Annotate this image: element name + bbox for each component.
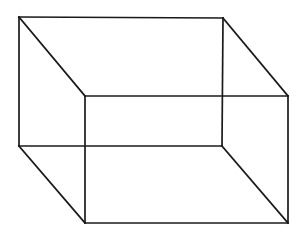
edge-back-bottom-left-to-front-bottom-left: [19, 146, 85, 223]
edge-back-bottom-right-to-front-bottom-right: [222, 146, 288, 223]
edge-back-top-right-to-back-bottom-right: [222, 18, 223, 146]
edge-back-top-left-to-front-top-left: [19, 17, 85, 96]
wireframe-box-diagram: [0, 0, 306, 238]
edge-back-top-right-to-front-top-right: [223, 18, 288, 96]
edge-back-top-left-to-back-top-right: [19, 17, 223, 18]
box-edges: [19, 17, 288, 223]
